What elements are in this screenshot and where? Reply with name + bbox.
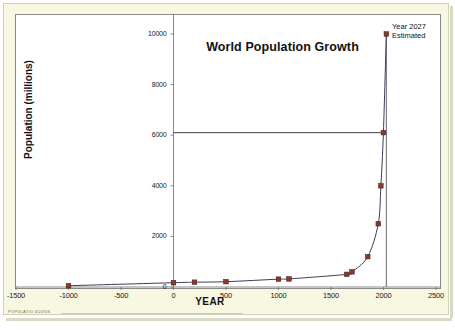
reference-lines-layer xyxy=(174,34,387,287)
data-series-layer xyxy=(66,32,388,288)
data-point-marker xyxy=(192,280,197,285)
x-axis-tick-label: 2000 xyxy=(364,291,404,300)
y-axis-tick-label: 2000 xyxy=(133,232,167,239)
data-point-marker xyxy=(224,279,229,284)
x-axis-tick-label: 2500 xyxy=(416,291,455,300)
data-point-marker xyxy=(350,270,355,275)
data-point-marker xyxy=(376,221,381,226)
y-axis-tick-label: 10000 xyxy=(133,30,167,37)
y-axis-tick-label: 4000 xyxy=(133,182,167,189)
footer-note: POPULATIO 4/24/06 xyxy=(8,309,50,314)
y-axis-tick-label: 8000 xyxy=(133,81,167,88)
x-axis-tick-label: 1000 xyxy=(259,291,299,300)
data-point-marker xyxy=(276,277,281,282)
data-point-marker xyxy=(344,272,349,277)
y-axis-tick-label: 6000 xyxy=(133,131,167,138)
x-axis-tick-label: -1000 xyxy=(49,291,89,300)
chart-figure: 0200040006000800010000 -1500-1000-500050… xyxy=(0,0,455,330)
x-axis-tick-label: -1500 xyxy=(0,291,36,300)
y-axis-tick-label: 0 xyxy=(133,283,167,290)
data-point-marker xyxy=(287,277,292,282)
estimate-annotation-label: Estimated xyxy=(392,31,426,40)
data-point-marker xyxy=(381,130,386,135)
footer-divider xyxy=(62,313,242,314)
chart-title: World Population Growth xyxy=(190,40,375,54)
y-axis-title: Population (millions) xyxy=(23,20,34,200)
estimate-annotation: Year 2027 Estimated xyxy=(392,22,426,40)
data-point-marker xyxy=(365,254,370,259)
data-point-marker xyxy=(66,283,71,288)
series-line xyxy=(69,34,387,286)
data-point-marker xyxy=(171,280,176,285)
estimate-annotation-year: Year 2027 xyxy=(392,22,426,31)
x-axis-tick-label: -500 xyxy=(101,291,141,300)
data-point-marker xyxy=(379,184,384,189)
x-axis-tick-label: 1500 xyxy=(311,291,351,300)
axes-layer xyxy=(16,14,440,290)
data-point-marker xyxy=(384,32,389,37)
x-axis-title: YEAR xyxy=(160,296,260,307)
